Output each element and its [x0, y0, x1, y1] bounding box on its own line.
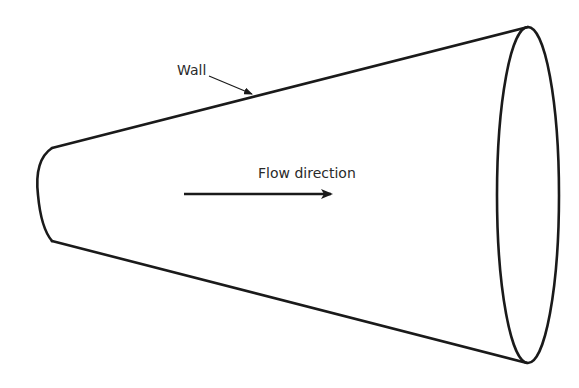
conical-duct-diagram	[0, 0, 579, 388]
wall-top-line	[52, 27, 528, 148]
wall-label: Wall	[177, 63, 206, 77]
outlet-end-ellipse	[497, 27, 559, 363]
flow-direction-label: Flow direction	[258, 166, 356, 180]
wall-leader-arrow	[209, 76, 252, 94]
inlet-end-arc	[37, 148, 52, 241]
wall-bottom-line	[52, 241, 527, 363]
